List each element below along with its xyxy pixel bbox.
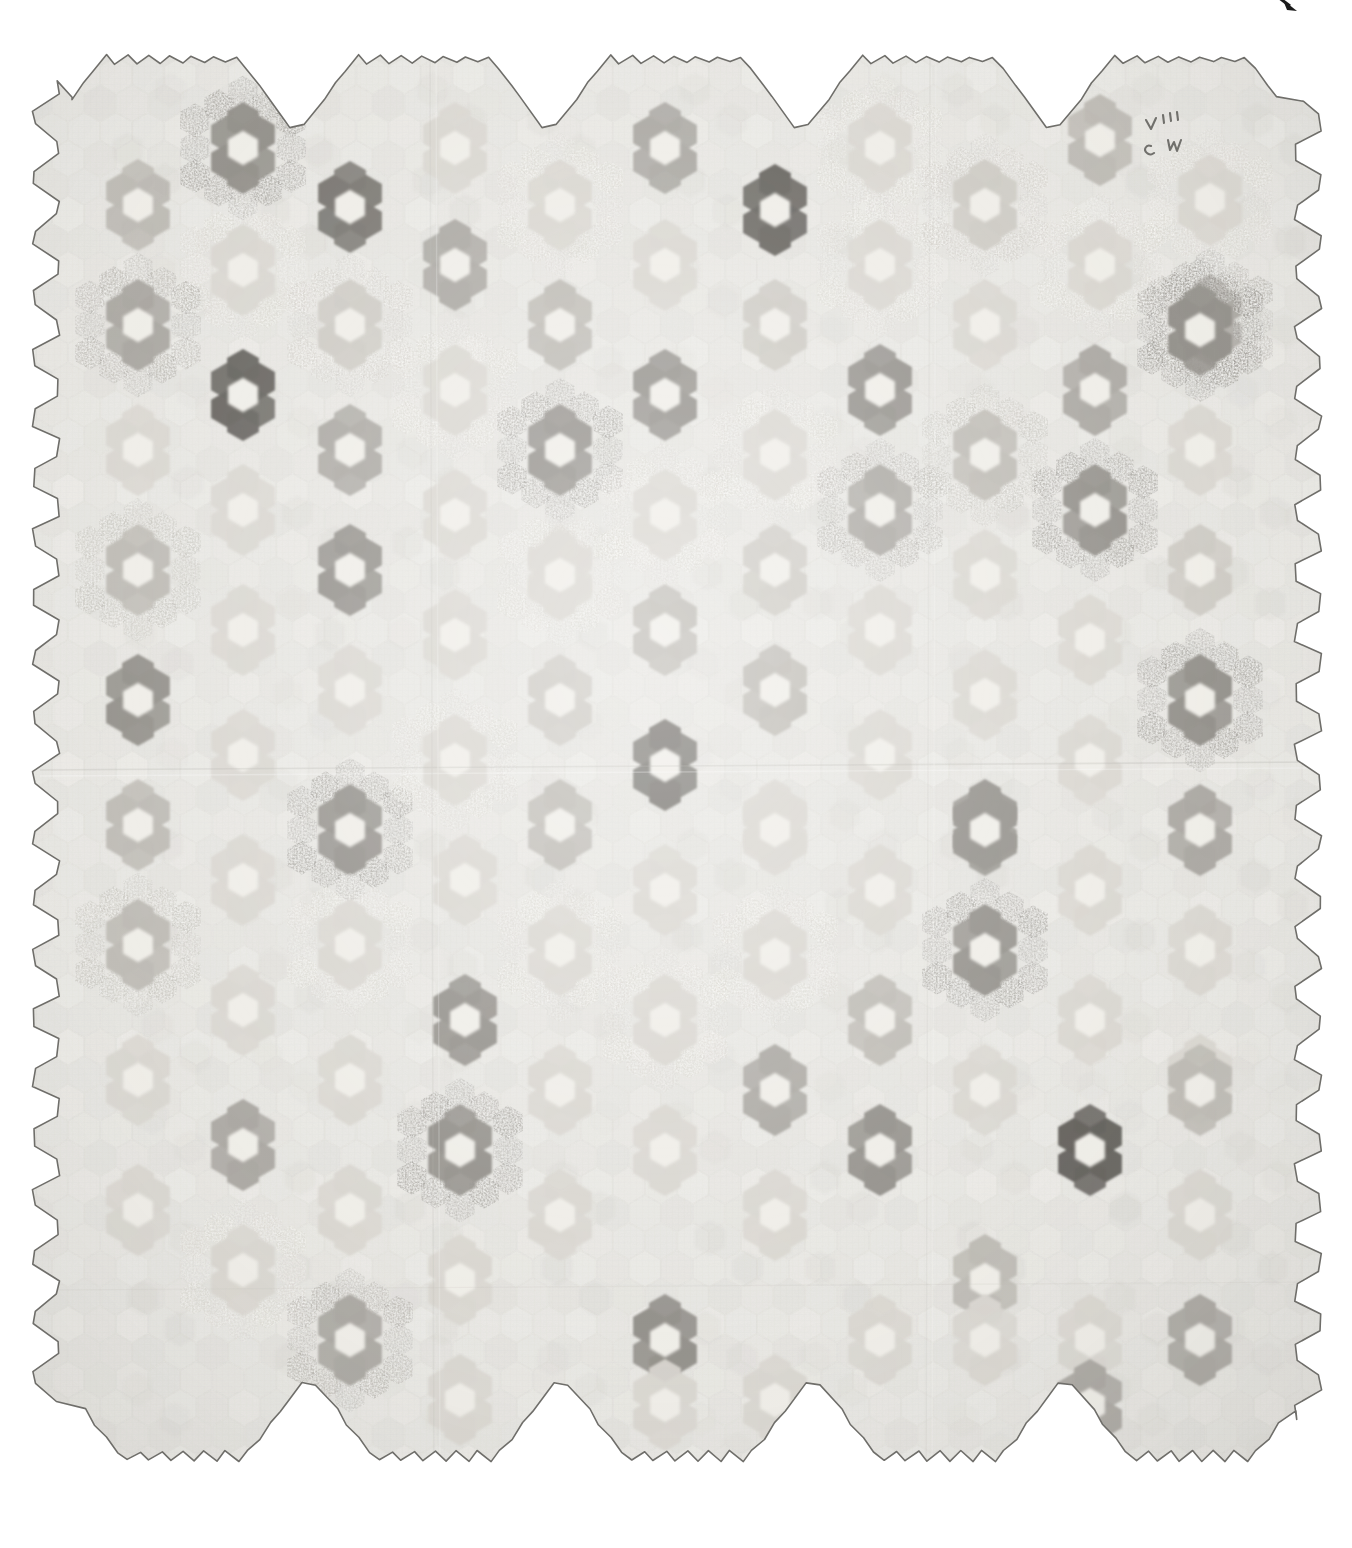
light-falloff xyxy=(0,0,1352,1548)
quilt-photograph xyxy=(0,0,1352,1548)
screenshot-canvas xyxy=(0,0,1352,1548)
quilt-body xyxy=(0,0,1352,1548)
